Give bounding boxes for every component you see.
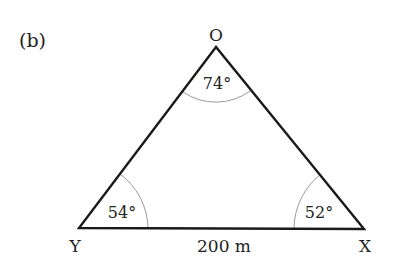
triangle-diagram: (b) O Y X 74° 54° 52° 200 m — [0, 0, 393, 274]
vertex-label-y: Y — [68, 236, 81, 256]
angle-label-o: 74° — [203, 74, 231, 93]
angle-label-y: 54° — [108, 203, 136, 222]
side-label-yx: 200 m — [197, 236, 251, 256]
angle-label-x: 52° — [305, 203, 333, 222]
part-label: (b) — [19, 29, 46, 51]
vertex-label-x: X — [359, 236, 372, 256]
vertex-label-o: O — [209, 25, 223, 45]
